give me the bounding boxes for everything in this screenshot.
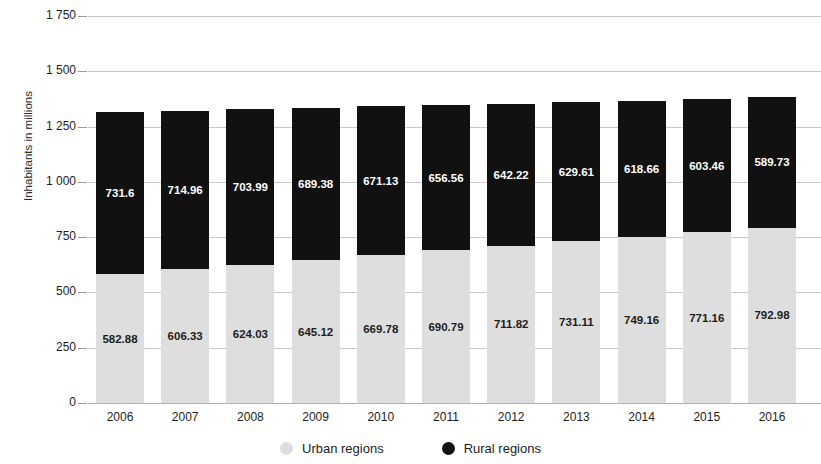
bar-segment-urban[interactable]: 606.33	[161, 269, 209, 403]
bar-group[interactable]: 690.79656.56	[422, 0, 470, 403]
y-tick-mark-1250	[78, 127, 87, 128]
bar-value-label-urban: 749.16	[624, 314, 659, 326]
x-tick-label-2010: 2010	[346, 410, 416, 424]
y-tick-mark-1000	[78, 182, 87, 183]
y-tick-mark-1750	[78, 16, 87, 17]
y-tick-label-1000: 1 000	[0, 174, 76, 188]
bar-value-label-urban: 792.98	[754, 309, 789, 321]
bar-segment-rural[interactable]: 731.6	[96, 112, 144, 274]
gridline-0	[88, 403, 821, 404]
x-tick-label-2014: 2014	[607, 410, 677, 424]
bar-group[interactable]: 645.12689.38	[292, 0, 340, 403]
plot-area: 02505007501 0001 2501 5001 750 582.88731…	[88, 0, 821, 403]
bar-segment-urban[interactable]: 749.16	[618, 237, 666, 403]
bar-value-label-urban: 582.88	[102, 333, 137, 345]
legend-item[interactable]: Urban regions	[280, 441, 384, 456]
bar-value-label-urban: 731.11	[559, 316, 594, 328]
x-tick-label-2015: 2015	[672, 410, 742, 424]
bar-value-label-rural: 689.38	[298, 178, 333, 190]
bar-segment-urban[interactable]: 582.88	[96, 274, 144, 403]
bar-value-label-rural: 714.96	[168, 184, 203, 196]
y-tick-label-1250: 1 250	[0, 119, 76, 133]
y-tick-label-1500: 1 500	[0, 63, 76, 77]
bar-value-label-rural: 642.22	[494, 169, 529, 181]
bar-value-label-urban: 606.33	[168, 330, 203, 342]
bar-group[interactable]: 711.82642.22	[487, 0, 535, 403]
bar-segment-rural[interactable]: 714.96	[161, 111, 209, 269]
y-tick-mark-1500	[78, 71, 87, 72]
y-tick-label-0: 0	[0, 395, 76, 409]
x-tick-label-2012: 2012	[476, 410, 546, 424]
x-tick-label-2016: 2016	[737, 410, 807, 424]
bar-value-label-urban: 690.79	[428, 321, 463, 333]
bar-group[interactable]: 606.33714.96	[161, 0, 209, 403]
bar-segment-rural[interactable]: 689.38	[292, 108, 340, 260]
bar-segment-rural[interactable]: 603.46	[683, 99, 731, 232]
bar-group[interactable]: 771.16603.46	[683, 0, 731, 403]
y-tick-mark-250	[78, 348, 87, 349]
bar-value-label-urban: 669.78	[363, 323, 398, 335]
y-tick-label-1750: 1 750	[0, 8, 76, 22]
bar-value-label-rural: 656.56	[428, 172, 463, 184]
bar-segment-urban[interactable]: 645.12	[292, 260, 340, 403]
x-tick-label-2008: 2008	[215, 410, 285, 424]
bar-value-label-rural: 629.61	[559, 166, 594, 178]
bar-group[interactable]: 792.98589.73	[748, 0, 796, 403]
bar-segment-urban[interactable]: 792.98	[748, 228, 796, 403]
chart-legend: Urban regionsRural regions	[0, 441, 821, 456]
bar-group[interactable]: 731.11629.61	[552, 0, 600, 403]
bar-value-label-rural: 603.46	[689, 160, 724, 172]
bar-segment-rural[interactable]: 642.22	[487, 104, 535, 246]
bar-value-label-rural: 618.66	[624, 163, 659, 175]
bar-value-label-urban: 624.03	[233, 328, 268, 340]
bar-segment-urban[interactable]: 711.82	[487, 246, 535, 403]
bar-value-label-urban: 771.16	[689, 312, 724, 324]
y-tick-mark-0	[78, 403, 87, 404]
bar-segment-rural[interactable]: 671.13	[357, 106, 405, 254]
bar-segment-urban[interactable]: 624.03	[226, 265, 274, 403]
y-tick-label-250: 250	[0, 340, 76, 354]
x-tick-label-2006: 2006	[85, 410, 155, 424]
bar-group[interactable]: 582.88731.6	[96, 0, 144, 403]
bar-segment-urban[interactable]: 690.79	[422, 250, 470, 403]
bar-group[interactable]: 669.78671.13	[357, 0, 405, 403]
bar-value-label-rural: 703.99	[233, 181, 268, 193]
legend-label: Urban regions	[302, 441, 384, 456]
y-tick-label-750: 750	[0, 229, 76, 243]
bar-segment-rural[interactable]: 589.73	[748, 97, 796, 227]
bar-value-label-urban: 711.82	[494, 318, 529, 330]
y-tick-mark-500	[78, 292, 87, 293]
legend-circle-icon	[280, 442, 293, 455]
x-tick-label-2011: 2011	[411, 410, 481, 424]
legend-item[interactable]: Rural regions	[442, 441, 541, 456]
bar-value-label-rural: 589.73	[754, 156, 789, 168]
bar-segment-rural[interactable]: 656.56	[422, 105, 470, 250]
bar-segment-rural[interactable]: 618.66	[618, 101, 666, 238]
bar-group[interactable]: 749.16618.66	[618, 0, 666, 403]
bar-segment-urban[interactable]: 669.78	[357, 255, 405, 403]
y-tick-label-500: 500	[0, 284, 76, 298]
bar-value-label-urban: 645.12	[298, 326, 333, 338]
y-axis-title: Inhabitants in millions	[22, 56, 34, 236]
legend-circle-icon	[442, 442, 455, 455]
stacked-bar-chart: Inhabitants in millions 02505007501 0001…	[0, 0, 821, 464]
x-tick-label-2009: 2009	[281, 410, 351, 424]
bar-value-label-rural: 671.13	[363, 175, 398, 187]
y-tick-mark-750	[78, 237, 87, 238]
bar-value-label-rural: 731.6	[106, 187, 135, 199]
legend-label: Rural regions	[464, 441, 541, 456]
bar-segment-urban[interactable]: 731.11	[552, 241, 600, 403]
bar-segment-urban[interactable]: 771.16	[683, 232, 731, 403]
x-tick-label-2013: 2013	[541, 410, 611, 424]
bar-group[interactable]: 624.03703.99	[226, 0, 274, 403]
bar-segment-rural[interactable]: 629.61	[552, 102, 600, 241]
x-tick-label-2007: 2007	[150, 410, 220, 424]
bar-segment-rural[interactable]: 703.99	[226, 109, 274, 265]
